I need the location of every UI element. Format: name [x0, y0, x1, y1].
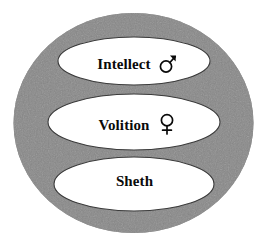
inner-ellipse-volition: [48, 94, 220, 150]
inner-ellipse-intellect: [58, 37, 210, 85]
ellipse-diagram-graphic: [0, 0, 269, 247]
inner-ellipse-sheth: [54, 157, 214, 211]
diagram-canvas: Intellect Volition Sheth: [0, 0, 269, 247]
